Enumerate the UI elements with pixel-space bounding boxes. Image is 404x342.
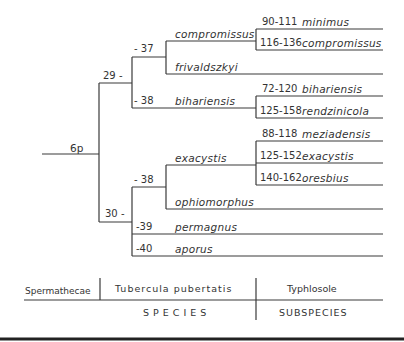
- node-39: -39: [136, 221, 152, 233]
- node-40: -40: [136, 243, 152, 255]
- subspecies-name: bihariensis: [302, 83, 362, 95]
- species-exacystis: exacystis: [175, 152, 227, 164]
- species-bihariensis: bihariensis: [175, 95, 235, 107]
- subspecies-range: 125-152: [260, 150, 302, 162]
- species-frivaldszkyi: frivaldszkyi: [175, 61, 238, 73]
- root-label: 6p: [70, 142, 83, 154]
- species-permagnus: permagnus: [175, 221, 237, 233]
- subspecies-name: exacystis: [302, 150, 354, 162]
- footer-species-label: SPECIES: [143, 307, 210, 318]
- subspecies-range: 116-136: [260, 37, 302, 49]
- footer-subspecies-label: SUBSPECIES: [279, 307, 348, 318]
- footer-tubercula: Tubercula pubertatis: [115, 283, 232, 294]
- species-ophiomorphus: ophiomorphus: [175, 196, 254, 208]
- subspecies-name: compromissus: [302, 37, 382, 49]
- subspecies-name: rendzinicola: [302, 105, 369, 117]
- subspecies-range: 125-158: [260, 105, 302, 117]
- footer-typhlosole: Typhlosole: [287, 283, 337, 294]
- subspecies-range: 88-118: [262, 128, 297, 140]
- subspecies-range: 90-111: [262, 16, 297, 28]
- subspecies-name: oresbius: [302, 172, 349, 184]
- subspecies-range: 72-120: [262, 83, 297, 95]
- node-30: 30 -: [105, 208, 125, 220]
- species-compromissus: compromissus: [175, 28, 255, 40]
- node-38-bihariensis: - 38: [134, 95, 154, 107]
- subspecies-name: minimus: [302, 16, 349, 28]
- species-aporus: aporus: [175, 243, 213, 255]
- footer-spermathecae: Spermathecae: [25, 286, 91, 296]
- subspecies-range: 140-162: [260, 172, 302, 184]
- subspecies-name: meziadensis: [302, 128, 371, 140]
- node-37: - 37: [134, 43, 154, 55]
- node-29: 29 -: [103, 70, 123, 82]
- node-38-exacystis: - 38: [134, 174, 154, 186]
